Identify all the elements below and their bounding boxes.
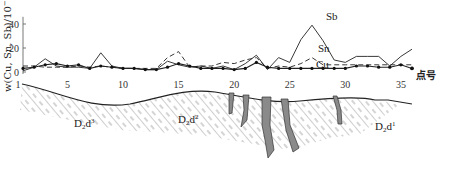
series-label-sb: Sb — [326, 10, 338, 22]
data-point-cu — [333, 67, 336, 70]
series-line-cu — [23, 62, 412, 69]
data-point-cu — [221, 67, 224, 70]
data-point-cu — [66, 64, 69, 67]
x-tick-label: 5 — [65, 79, 70, 90]
x-tick-label: 20 — [229, 79, 239, 90]
x-tick-label: 15 — [174, 79, 184, 90]
data-point-cu — [33, 66, 36, 69]
y-tick-label: 0 — [14, 67, 19, 78]
data-point-cu — [99, 64, 102, 67]
data-point-cu — [155, 68, 158, 71]
formation-label-d2d1: D2d1 — [375, 120, 396, 134]
data-point-cu — [44, 63, 47, 66]
x-tick-label: 10 — [118, 79, 128, 90]
data-point-cu — [255, 61, 258, 64]
data-series — [21, 25, 413, 71]
data-point-cu — [55, 62, 58, 65]
x-tick-label: 35 — [396, 79, 406, 90]
data-point-cu — [177, 62, 180, 65]
data-point-cu — [144, 68, 147, 71]
series-label-cu: Cu — [316, 58, 329, 70]
data-point-cu — [21, 67, 24, 70]
axis-end-marker — [410, 67, 414, 71]
data-point-cu — [266, 66, 269, 69]
data-point-cu — [299, 67, 302, 70]
data-point-cu — [366, 64, 369, 67]
data-point-cu — [233, 68, 236, 71]
chart-svg: 0204015101520253035 w(Cu, Sn, Sb)/10−6 点… — [0, 0, 449, 169]
data-point-cu — [310, 67, 313, 70]
x-axis-label: 点号 — [416, 69, 436, 81]
data-point-cu — [355, 64, 358, 67]
data-point-cu — [377, 66, 380, 69]
formation-label-d2d3: D2d3 — [74, 117, 95, 131]
x-tick-label: 1 — [16, 79, 21, 90]
geochem-profile-figure: 0204015101520253035 w(Cu, Sn, Sb)/10−6 点… — [0, 0, 449, 169]
data-point-cu — [277, 67, 280, 70]
data-point-cu — [110, 66, 113, 69]
axes: 0204015101520253035 — [9, 17, 406, 90]
data-point-cu — [121, 67, 124, 70]
data-point-cu — [199, 67, 202, 70]
series-label-sn: Sn — [318, 42, 330, 54]
y-axis-label: w(Cu, Sn, Sb)/10−6 — [1, 0, 13, 92]
x-tick-label: 25 — [285, 79, 295, 90]
data-point-cu — [244, 67, 247, 70]
data-point-cu — [399, 63, 402, 66]
data-point-cu — [133, 67, 136, 70]
data-point-cu — [210, 67, 213, 70]
x-tick-label: 30 — [340, 79, 350, 90]
data-point-cu — [188, 64, 191, 67]
data-point-cu — [388, 66, 391, 69]
data-point-cu — [88, 67, 91, 70]
data-point-cu — [166, 66, 169, 69]
data-point-cu — [77, 63, 80, 66]
data-point-cu — [344, 67, 347, 70]
data-point-cu — [288, 67, 291, 70]
